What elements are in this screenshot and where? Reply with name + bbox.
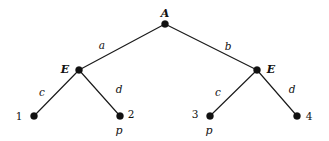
tree-node-dot-leaf-4	[294, 113, 301, 120]
tree-node-dot-leaf-1	[31, 113, 38, 120]
edge-label-edge-b: b	[225, 41, 232, 52]
tree-edge-b	[165, 24, 257, 70]
leaf-label-leaf-4: 4	[306, 111, 313, 122]
nodes-group	[31, 21, 301, 120]
tree-node-dot-e-left	[76, 67, 83, 74]
annotation-prod-leaf-2: p	[115, 125, 122, 136]
tree-node-dot-root	[162, 21, 169, 28]
edge-label-edge-d-right: d	[289, 84, 296, 95]
tree-edge-a	[79, 24, 165, 70]
tree-node-dot-leaf-2	[117, 113, 124, 120]
annotation-prod-leaf-3: p	[205, 125, 212, 136]
parse-tree-diagram: AEE1234abcdcdpp	[0, 0, 329, 141]
edge-label-edge-a: a	[99, 40, 105, 51]
tree-node-dot-e-right	[254, 67, 261, 74]
edge-label-edge-d-left: d	[116, 84, 123, 95]
leaf-label-leaf-3: 3	[192, 109, 199, 120]
tree-edge-d	[79, 70, 120, 116]
tree-canvas	[0, 0, 329, 141]
edge-label-edge-c-left: c	[39, 87, 45, 98]
node-label-e-left: E	[61, 64, 70, 75]
leaf-label-leaf-2: 2	[128, 109, 135, 120]
leaf-label-leaf-1: 1	[16, 111, 23, 122]
node-label-root: A	[161, 8, 170, 19]
tree-node-dot-leaf-3	[207, 113, 214, 120]
edge-label-edge-c-right: c	[215, 87, 221, 98]
node-label-e-right: E	[267, 64, 276, 75]
